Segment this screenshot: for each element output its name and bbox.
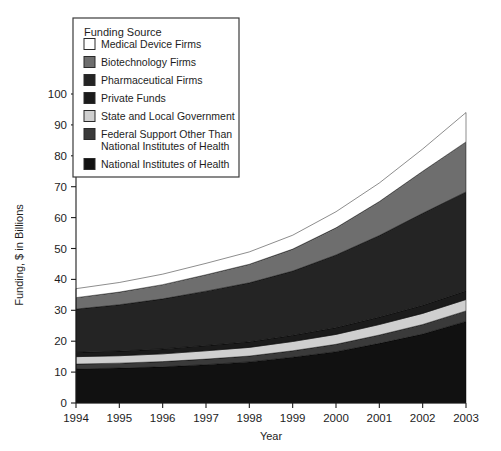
- legend-label: Medical Device Firms: [101, 38, 201, 50]
- y-tick-label: 90: [54, 119, 67, 131]
- y-tick-label: 50: [54, 243, 67, 255]
- swatch-biotechnology: [84, 57, 95, 68]
- y-tick-label: 40: [54, 273, 67, 285]
- x-axis-title: Year: [260, 430, 283, 442]
- y-tick-label: 30: [54, 304, 67, 316]
- legend-title: Funding Source: [84, 26, 162, 38]
- x-tick-label: 1994: [63, 412, 89, 424]
- x-tick-label: 1998: [237, 412, 263, 424]
- swatch-state-local: [84, 111, 95, 122]
- x-tick-label: 2001: [367, 412, 393, 424]
- swatch-private-funds: [84, 93, 95, 104]
- swatch-nih: [84, 159, 95, 170]
- x-tick-label: 1996: [150, 412, 176, 424]
- y-tick-label: 100: [48, 88, 67, 100]
- y-tick-label: 10: [54, 366, 67, 378]
- legend-label: Private Funds: [101, 92, 166, 104]
- swatch-federal-other: [84, 129, 95, 140]
- y-tick-label: 60: [54, 212, 67, 224]
- legend-label-line2: National Institutes of Health: [101, 140, 230, 152]
- y-tick-label: 80: [54, 150, 67, 162]
- x-tick-label: 1995: [107, 412, 133, 424]
- chart-legend: Funding Source Medical Device FirmsBiote…: [73, 18, 239, 177]
- y-tick-label: 70: [54, 181, 67, 193]
- x-tick-label: 2000: [323, 412, 349, 424]
- stacked-area-chart: 0102030405060708090100 19941995199619971…: [0, 0, 501, 451]
- legend-label: State and Local Government: [101, 110, 235, 122]
- x-tick-label: 2003: [453, 412, 479, 424]
- x-tick-label: 1997: [193, 412, 219, 424]
- legend-label: Pharmaceutical Firms: [101, 74, 203, 86]
- chart-figure: 0102030405060708090100 19941995199619971…: [0, 0, 501, 451]
- x-tick-label: 2002: [410, 412, 436, 424]
- legend-label: Federal Support Other Than: [101, 128, 232, 140]
- swatch-pharmaceutical: [84, 75, 95, 86]
- x-tick-label: 1999: [280, 412, 306, 424]
- legend-label: Biotechnology Firms: [101, 56, 196, 68]
- swatch-medical-device: [84, 39, 95, 50]
- legend-label: National Institutes of Health: [101, 158, 230, 170]
- y-tick-label: 0: [61, 397, 67, 409]
- y-tick-label: 20: [54, 335, 67, 347]
- y-axis-title: Funding, $ in Billions: [13, 204, 25, 306]
